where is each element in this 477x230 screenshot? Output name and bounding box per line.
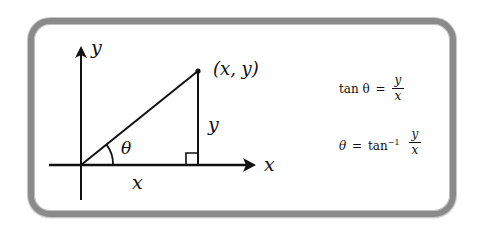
fraction-denominator: x: [392, 90, 404, 103]
equals-sign: =: [376, 82, 386, 96]
right-triangle-diagram: [0, 0, 477, 230]
fraction-numerator: y: [409, 128, 421, 141]
point-marker: [195, 68, 200, 73]
x-axis-label: x: [264, 153, 275, 175]
equation-tangent: tan θ =: [339, 82, 388, 96]
equation-arctangent: θ = tan−1: [339, 138, 399, 153]
right-angle-marker: [186, 153, 198, 165]
fraction-y-over-x: y x: [409, 128, 421, 157]
equals-sign: =: [352, 139, 362, 153]
angle-label: θ: [121, 138, 131, 158]
inverse-superscript: −1: [388, 138, 400, 147]
fraction-numerator: y: [392, 74, 404, 87]
equation-lhs: θ: [339, 139, 346, 153]
fraction-y-over-x: y x: [392, 74, 404, 103]
point-label: (x, y): [213, 58, 259, 79]
y-axis: [75, 46, 87, 200]
angle-arc: [107, 145, 114, 165]
equation-lhs: tan θ: [339, 82, 370, 96]
opposite-label: y: [208, 113, 219, 135]
fraction-denominator: x: [409, 144, 421, 157]
function-name: tan: [368, 139, 388, 153]
y-axis-label: y: [91, 36, 102, 58]
hypotenuse-line: [81, 71, 198, 165]
adjacent-label: x: [132, 171, 143, 193]
